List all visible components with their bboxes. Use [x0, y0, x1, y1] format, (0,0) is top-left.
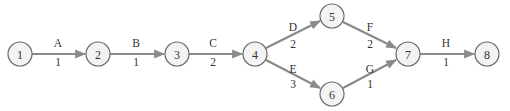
edge-activity-label: E: [289, 63, 296, 75]
node-4: 4: [243, 42, 267, 66]
node-5: 5: [320, 4, 344, 28]
edge-activity-label: B: [132, 37, 140, 49]
node-8: 8: [475, 42, 499, 66]
node-label: 1: [17, 48, 23, 62]
edge-b: B 1: [110, 37, 164, 68]
edge-c: C 2: [189, 37, 242, 68]
edge-a: A 1: [32, 37, 85, 68]
edge-g: G 1: [343, 60, 396, 90]
node-1: 1: [8, 42, 32, 66]
edge-duration-label: 1: [443, 56, 449, 68]
edge-duration-label: 2: [290, 38, 296, 50]
node-label: 8: [484, 48, 490, 62]
edge-activity-label: G: [366, 63, 374, 75]
node-label: 4: [252, 48, 258, 62]
node-label: 6: [329, 88, 335, 102]
edge-activity-label: F: [367, 21, 373, 33]
node-label: 5: [329, 10, 335, 24]
network-diagram: A 1 B 1 C 2 D 2 E 3 F 2 G: [0, 0, 510, 111]
node-label: 7: [405, 48, 411, 62]
edge-duration-label: 1: [55, 56, 61, 68]
edge-duration-label: 3: [290, 78, 296, 90]
edge-e: E 3: [266, 60, 320, 90]
edge-activity-label: D: [289, 21, 297, 33]
edge-activity-label: C: [209, 37, 217, 49]
node-7: 7: [396, 42, 420, 66]
edge-duration-label: 1: [367, 78, 373, 90]
edge-h: H 1: [420, 37, 474, 68]
node-2: 2: [86, 42, 110, 66]
edge-activity-label: A: [54, 37, 63, 49]
edge-duration-label: 1: [133, 56, 139, 68]
edge-activity-label: H: [442, 37, 450, 49]
edge-duration-label: 2: [367, 38, 373, 50]
node-6: 6: [320, 82, 344, 106]
edge-d: D 2: [266, 21, 320, 50]
node-label: 2: [95, 48, 101, 62]
node-label: 3: [174, 48, 180, 62]
edge-duration-label: 2: [210, 56, 216, 68]
node-3: 3: [165, 42, 189, 66]
edge-f: F 2: [343, 21, 396, 50]
